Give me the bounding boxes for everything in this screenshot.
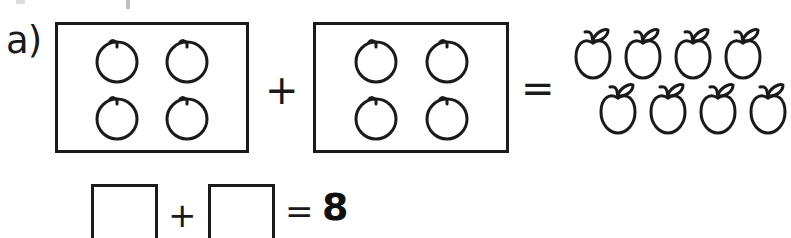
apple-icon <box>619 26 667 83</box>
circle-fruit-icon <box>350 90 402 142</box>
apple-icon <box>644 81 692 138</box>
circle-fruit-icon <box>161 33 213 85</box>
apple-icon <box>594 81 642 138</box>
circle-fruit-icon <box>91 33 143 85</box>
apple-row-top <box>569 26 767 83</box>
cropped-text-artifact <box>126 0 130 9</box>
answer-blank-first-addend[interactable] <box>91 184 158 238</box>
first-addend-box <box>55 22 249 153</box>
cropped-text-artifact-secondary <box>16 0 25 4</box>
apple-icon <box>694 81 742 138</box>
answer-blank-second-addend[interactable] <box>208 184 275 238</box>
apple-result-group <box>565 26 782 150</box>
apple-icon <box>569 26 617 83</box>
apple-icon <box>744 81 791 138</box>
second-addend-box <box>313 22 509 153</box>
circle-fruit-icon <box>421 90 473 142</box>
circle-fruit-icon <box>91 90 143 142</box>
circle-fruit-icon <box>421 33 473 85</box>
apple-icon <box>719 26 767 83</box>
circle-fruit-icon <box>161 90 213 142</box>
answer-equals-operator: = <box>285 194 314 228</box>
problem-label: a) <box>6 22 41 59</box>
circle-fruit-icon <box>350 33 402 85</box>
equals-operator: = <box>521 68 555 108</box>
answer-plus-operator: + <box>168 198 197 232</box>
answer-sum-value: 8 <box>322 188 348 226</box>
second-addend-items <box>316 25 506 150</box>
apple-icon <box>669 26 717 83</box>
plus-operator: + <box>265 70 299 110</box>
apple-row-bottom <box>594 81 791 138</box>
first-addend-items <box>58 25 246 150</box>
answer-equation-row: + = 8 <box>0 176 782 226</box>
